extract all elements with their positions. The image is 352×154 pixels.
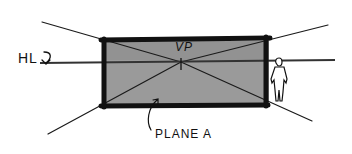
plane-label: PLANE A [155, 127, 212, 141]
vanishing-point-label: VP [175, 40, 193, 54]
human-figure-icon [271, 58, 287, 101]
horizon-line-label: HL [18, 50, 38, 66]
